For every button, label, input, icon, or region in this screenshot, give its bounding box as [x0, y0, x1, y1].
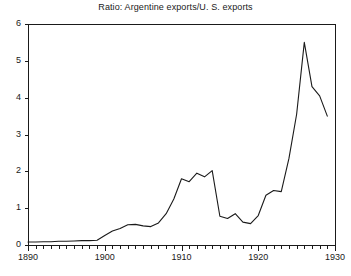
data-series-line — [28, 42, 327, 242]
chart-container: Ratio: Argentine exports/U. S. exports 0… — [0, 0, 351, 276]
x-axis-ticks — [29, 246, 336, 251]
y-tick-label: 2 — [3, 165, 21, 175]
y-tick-label: 1 — [3, 202, 21, 212]
chart-plot-area — [0, 0, 351, 276]
x-tick-label: 1890 — [8, 252, 48, 262]
x-tick-label: 1910 — [162, 252, 202, 262]
y-tick-label: 4 — [3, 92, 21, 102]
x-tick-label: 1930 — [315, 252, 351, 262]
y-tick-label: 6 — [3, 18, 21, 28]
y-tick-label: 3 — [3, 129, 21, 139]
axis-frame — [29, 25, 336, 246]
y-axis-ticks — [25, 25, 29, 246]
y-tick-label: 0 — [3, 239, 21, 249]
x-tick-label: 1920 — [238, 252, 278, 262]
y-tick-label: 5 — [3, 55, 21, 65]
x-tick-label: 1900 — [85, 252, 125, 262]
